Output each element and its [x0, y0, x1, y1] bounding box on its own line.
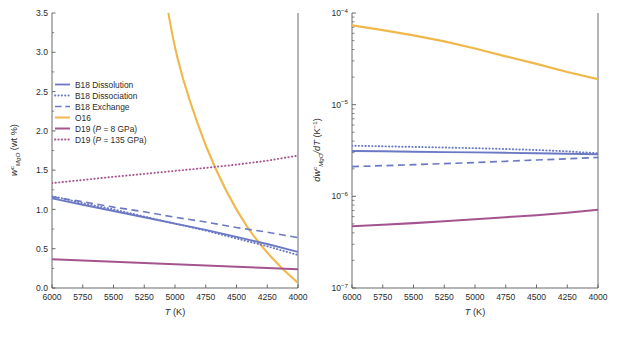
right-x-ticklabel: 5750 — [373, 292, 392, 302]
right-x-ticklabel: 5000 — [465, 292, 484, 302]
left-x-ticklabel: 6000 — [42, 292, 61, 302]
right-x-ticklabel: 4000 — [588, 292, 607, 302]
left-y-ticklabel: 3.0 — [36, 47, 48, 57]
right-ylabel-units: (K — [312, 128, 322, 141]
left-ylabel-subscript: MgO — [14, 153, 21, 167]
left-y-ticklabel: 1.0 — [36, 205, 48, 215]
right-xlabel-units: (K) — [470, 307, 485, 317]
left-x-ticklabel: 5250 — [135, 292, 154, 302]
figure-root: 0.0 0.5 1.0 1.5 2.0 2.5 3.0 3.5 6000 575… — [0, 0, 624, 338]
legend-label-d19-135gpa-post: = 135 GPa) — [101, 135, 147, 145]
right-panel-xlabel: T (K) — [465, 307, 485, 317]
legend-label-d19-8gpa-post: = 8 GPa) — [101, 124, 137, 134]
right-panel-x-ticklabels: 6000 5750 5500 5250 5000 4750 4500 4250 … — [342, 292, 607, 302]
left-x-ticklabel: 5000 — [165, 292, 184, 302]
legend-label-d19-8gpa-pre: D19 ( — [75, 124, 96, 134]
left-panel-xlabel: T (K) — [165, 307, 185, 317]
right-ylabel-subscript: MgO — [317, 153, 324, 167]
legend-label: D19 (P = 8 GPa) — [75, 124, 137, 134]
left-panel-x-ticklabels: 6000 5750 5500 5250 5000 4750 4500 4250 … — [42, 292, 307, 302]
right-x-ticklabel: 4750 — [496, 292, 515, 302]
left-ylabel-units: (wt %) — [9, 124, 19, 153]
right-x-ticklabel: 6000 — [342, 292, 361, 302]
left-xlabel-units: (K) — [170, 307, 185, 317]
left-x-ticklabel: 4250 — [258, 292, 277, 302]
left-x-ticklabel: 5500 — [104, 292, 123, 302]
svg-text:T (K): T (K) — [165, 307, 185, 317]
left-x-ticklabel: 4000 — [288, 292, 307, 302]
right-x-ticklabel: 4500 — [527, 292, 546, 302]
right-x-ticklabel: 4250 — [558, 292, 577, 302]
right-x-ticklabel: 5250 — [435, 292, 454, 302]
figure-canvas: 0.0 0.5 1.0 1.5 2.0 2.5 3.0 3.5 6000 575… — [0, 0, 624, 338]
legend-label: O16 — [75, 113, 91, 123]
left-x-ticklabel: 4500 — [227, 292, 246, 302]
right-x-ticklabel: 5500 — [404, 292, 423, 302]
left-x-ticklabel: 5750 — [73, 292, 92, 302]
left-y-ticklabel: 2.0 — [36, 126, 48, 136]
left-y-ticklabel: 2.5 — [36, 87, 48, 97]
legend-label: B18 Exchange — [75, 102, 130, 112]
legend-label-d19-135gpa-pre: D19 ( — [75, 135, 96, 145]
legend-label: D19 (P = 135 GPa) — [75, 135, 147, 145]
svg-text:T (K): T (K) — [465, 307, 485, 317]
left-x-ticklabel: 4750 — [196, 292, 215, 302]
legend-label: B18 Dissolution — [75, 80, 134, 90]
left-y-ticklabel: 0.5 — [36, 244, 48, 254]
left-y-ticklabel: 1.5 — [36, 165, 48, 175]
legend-label: B18 Dissociation — [75, 91, 138, 101]
left-y-ticklabel: 3.5 — [36, 8, 48, 18]
